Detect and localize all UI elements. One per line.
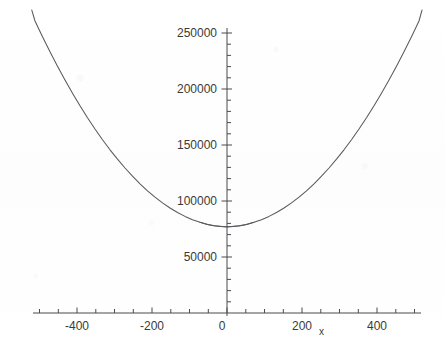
x-axis-name: x — [319, 327, 324, 337]
y-tick-label-50000: 50000 — [155, 251, 217, 263]
y-tick-label-150000: 150000 — [155, 139, 217, 151]
x-tick-label-zero: 0 — [192, 320, 252, 332]
plot-canvas — [0, 0, 445, 354]
x-tick-label-minus200: -200 — [122, 320, 182, 332]
x-axis-major-ticks — [77, 308, 377, 314]
y-tick-label-200000: 200000 — [155, 83, 217, 95]
x-tick-label-400: 400 — [347, 320, 407, 332]
x-tick-label-minus400: -400 — [47, 320, 107, 332]
y-tick-label-250000: 250000 — [155, 27, 217, 39]
chart-figure: 250000 200000 150000 100000 50000 -400 -… — [0, 0, 445, 354]
y-axis-minor-ticks — [227, 44, 231, 302]
y-tick-label-100000: 100000 — [155, 195, 217, 207]
